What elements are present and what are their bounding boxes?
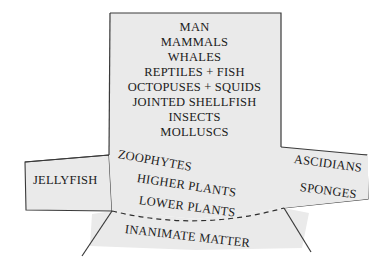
column-label-jointed-shellfish: JOINTED SHELLFISH: [0, 96, 389, 109]
column-label-whales: WHALES: [0, 51, 389, 64]
column-label-insects: INSECTS: [0, 111, 389, 124]
column-label-octopuses-squids: OCTOPUSES + SQUIDS: [0, 81, 389, 94]
column-label-reptiles-fish: REPTILES + FISH: [0, 66, 389, 79]
column-label-man: MAN: [0, 21, 389, 34]
column-label-mammals: MAMMALS: [0, 36, 389, 49]
left-wing-label-jellyfish: JELLYFISH: [33, 173, 97, 188]
evolution-tree-diagram: MAN MAMMALS WHALES REPTILES + FISH OCTOP…: [0, 0, 389, 263]
column-label-molluscs: MOLLUSCS: [0, 126, 389, 139]
